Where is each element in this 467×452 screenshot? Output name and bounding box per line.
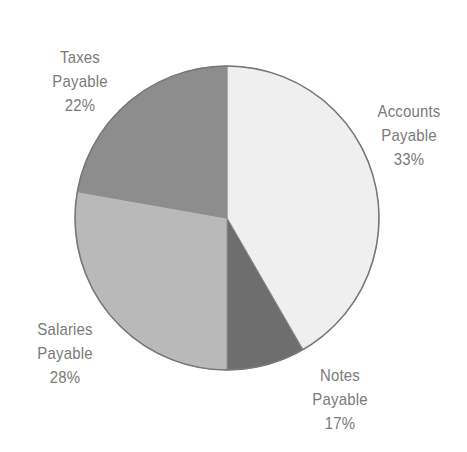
label-accounts-percent: 33% <box>365 148 453 172</box>
label-notes-payable: Notes Payable 17% <box>296 364 384 436</box>
label-notes-line2: Payable <box>296 388 384 412</box>
label-taxes-percent: 22% <box>36 94 124 118</box>
label-salaries-line2: Payable <box>21 342 109 366</box>
label-accounts-line1: Accounts <box>365 100 453 124</box>
label-salaries-payable: Salaries Payable 28% <box>21 318 109 390</box>
label-salaries-line1: Salaries <box>21 318 109 342</box>
label-notes-line1: Notes <box>296 364 384 388</box>
label-accounts-line2: Payable <box>365 124 453 148</box>
label-taxes-line2: Payable <box>36 70 124 94</box>
label-taxes-line1: Taxes <box>36 46 124 70</box>
label-taxes-payable: Taxes Payable 22% <box>36 46 124 118</box>
label-accounts-payable: Accounts Payable 33% <box>365 100 453 172</box>
label-notes-percent: 17% <box>296 412 384 436</box>
label-salaries-percent: 28% <box>21 366 109 390</box>
